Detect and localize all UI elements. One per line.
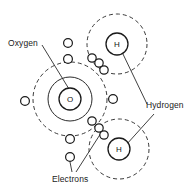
hydrogen-label: Hydrogen xyxy=(146,100,184,110)
oxygen-label: Oxygen xyxy=(8,38,38,48)
diagram-canvas: O H H xyxy=(0,0,194,191)
electron xyxy=(21,97,30,106)
electron xyxy=(100,131,108,139)
electron xyxy=(64,55,73,64)
oxygen-nucleus-symbol: O xyxy=(67,95,73,104)
electron xyxy=(88,117,96,125)
electron xyxy=(66,153,75,162)
hydrogen-bottom-nucleus-symbol: H xyxy=(116,145,122,154)
hydrogen-top-nucleus-symbol: H xyxy=(114,40,120,49)
electron xyxy=(109,95,118,104)
hydrogen-top-leader-line xyxy=(122,52,147,104)
electrons-label: Electrons xyxy=(52,174,88,184)
electron xyxy=(100,66,108,74)
electrons-leader-line-right xyxy=(76,133,101,172)
water-molecule-diagram: O H H Oxygen Hydrogen Electrons xyxy=(0,0,194,191)
electrons-leader-line-left xyxy=(70,162,72,172)
electron xyxy=(64,39,73,48)
electron xyxy=(66,135,75,144)
hydrogen-bottom-leader-line xyxy=(126,114,154,145)
